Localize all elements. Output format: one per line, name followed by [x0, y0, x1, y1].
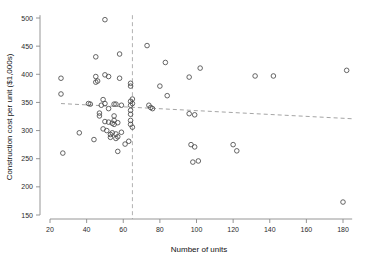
y-tick-label: 350 — [21, 99, 33, 106]
scatter-point — [92, 137, 97, 142]
scatter-point — [59, 76, 64, 81]
y-axis-title: Construction cost per unit ($1,000s) — [5, 53, 14, 180]
x-tick-label: 80 — [156, 226, 164, 233]
page-header-fragment — [357, 0, 359, 5]
x-tick-label: 160 — [301, 226, 313, 233]
scatter-plot-figure: 150200250300350400450500 204060801001201… — [0, 0, 367, 259]
x-axis-title: Number of units — [171, 245, 227, 254]
y-tick-label: 450 — [21, 43, 33, 50]
scatter-point — [126, 139, 131, 144]
scatter-point — [103, 17, 108, 22]
x-tick-label: 60 — [119, 226, 127, 233]
scatter-point — [61, 151, 66, 156]
scatter-point — [191, 160, 196, 165]
scatter-point — [253, 74, 258, 79]
x-axis-group: 20406080100120140160180 — [46, 219, 352, 233]
scatter-point — [115, 149, 120, 154]
scatter-point — [163, 60, 168, 65]
scatter-point — [119, 130, 124, 135]
scatter-point — [234, 149, 239, 154]
y-tick-label: 150 — [21, 212, 33, 219]
scatter-point — [192, 145, 197, 150]
y-tick-label: 500 — [21, 15, 33, 22]
y-tick-label: 200 — [21, 183, 33, 190]
scatter-point — [145, 43, 150, 48]
scatter-point — [106, 106, 111, 111]
scatter-point — [93, 74, 98, 79]
scatter-point — [344, 68, 349, 73]
scatter-point — [192, 113, 197, 118]
scatter-point — [93, 55, 98, 60]
scatter-point — [196, 159, 201, 164]
x-tick-label: 100 — [191, 226, 203, 233]
scatter-point — [59, 92, 64, 97]
scatter-point — [97, 114, 102, 119]
scatter-point — [341, 200, 346, 205]
scatter-point — [108, 135, 113, 140]
x-tick-label: 40 — [83, 226, 91, 233]
scatter-point — [119, 103, 124, 108]
scatter-point — [77, 131, 82, 136]
scatter-point — [198, 66, 203, 71]
y-axis-group: 150200250300350400450500 — [21, 15, 40, 219]
scatter-point — [187, 111, 192, 116]
x-tick-label: 120 — [227, 226, 239, 233]
scatter-point — [271, 74, 276, 79]
x-tick-label: 180 — [337, 226, 349, 233]
scatter-point — [117, 52, 122, 57]
scatter-point — [165, 93, 170, 98]
scatter-point — [231, 142, 236, 147]
y-tick-label: 300 — [21, 127, 33, 134]
scatter-point — [158, 84, 163, 89]
y-tick-label: 250 — [21, 155, 33, 162]
x-tick-label: 140 — [264, 226, 276, 233]
y-tick-label: 400 — [21, 71, 33, 78]
scatter-point — [187, 75, 192, 80]
x-tick-label: 20 — [46, 226, 54, 233]
scatter-point — [117, 76, 122, 81]
plot-canvas: 150200250300350400450500 204060801001201… — [0, 0, 367, 259]
scatter-point — [112, 114, 117, 119]
